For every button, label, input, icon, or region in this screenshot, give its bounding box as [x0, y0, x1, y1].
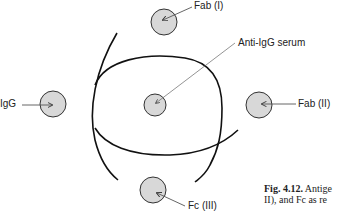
caption-fig-number: Fig. 4.12. [264, 183, 303, 194]
well-fc-iii [140, 177, 166, 203]
well-fab-ii [246, 92, 272, 118]
caption-line-1: Fig. 4.12. Antige [264, 183, 332, 194]
precipitin-arc-igg-left [92, 33, 118, 180]
label-igg: IgG [0, 99, 16, 109]
well-fab-i [151, 9, 177, 35]
well-igg [40, 91, 66, 117]
label-anti-igg-serum: Anti-IgG serum [238, 38, 305, 48]
well-anti-igg [144, 94, 166, 116]
figure-caption: Fig. 4.12. Antige II), and Fc as re [264, 183, 332, 205]
precipitin-closed-curve [95, 56, 222, 182]
caption-line-1-text: Antige [303, 183, 332, 194]
immunodiffusion-diagram: Fab (I) IgG Anti-IgG serum Fab (II) Fc (… [0, 0, 338, 213]
label-fab-i: Fab (I) [194, 1, 223, 11]
caption-line-2: II), and Fc as re [264, 194, 332, 205]
label-fab-ii: Fab (II) [298, 99, 330, 109]
label-fc-iii: Fc (III) [188, 201, 217, 211]
diagram-canvas [0, 0, 338, 213]
pointer-anti-igg [156, 43, 235, 103]
